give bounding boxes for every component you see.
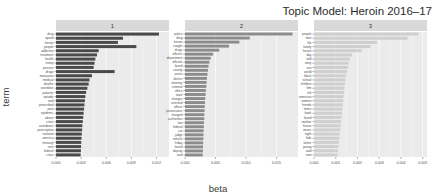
bar — [314, 133, 340, 136]
bar — [185, 57, 211, 60]
x-tick-label: 0.000 — [181, 161, 190, 165]
x-tick-label: 0.009 — [127, 161, 136, 165]
x-tick-label: 0.000 — [310, 161, 319, 165]
bar — [56, 124, 82, 127]
bar — [56, 87, 87, 90]
bar — [56, 120, 83, 123]
x-tick-label: 0.003 — [375, 161, 384, 165]
y-tick-label: said — [177, 153, 183, 157]
bar — [56, 116, 83, 119]
bar — [314, 145, 338, 148]
bar — [185, 117, 204, 120]
bar — [56, 53, 97, 56]
x-tick-label: 0.003 — [77, 161, 86, 165]
bar — [314, 116, 341, 119]
bar — [185, 61, 209, 64]
bar — [314, 78, 346, 81]
bar — [314, 141, 339, 144]
bar — [185, 129, 204, 132]
bar — [314, 137, 339, 140]
bar — [185, 113, 204, 116]
bar — [314, 62, 349, 65]
bar — [314, 112, 342, 115]
bar — [56, 58, 95, 61]
bar — [314, 45, 371, 48]
bar — [185, 89, 206, 92]
bar — [185, 69, 208, 72]
bar — [185, 125, 204, 128]
bar — [185, 81, 207, 84]
bar — [56, 66, 94, 69]
bar — [56, 62, 95, 65]
bar — [56, 49, 99, 52]
bar — [314, 153, 337, 156]
x-tick-label: 0.005 — [211, 161, 220, 165]
bar — [185, 93, 206, 96]
bar — [185, 121, 204, 124]
facet-panel-3: 3peopletimelifefamilyheroindaytoldstorys… — [299, 20, 427, 165]
bar — [185, 85, 206, 88]
bar — [314, 53, 352, 56]
bar — [185, 109, 205, 112]
bar — [185, 37, 250, 40]
bar — [314, 37, 407, 40]
bar — [314, 87, 344, 90]
bar — [56, 103, 84, 106]
bar — [185, 65, 209, 68]
bar — [185, 101, 205, 104]
y-tick-label: crisis — [46, 153, 53, 157]
bar — [314, 120, 341, 123]
bar — [185, 77, 207, 80]
bar — [314, 58, 350, 61]
bar — [56, 74, 92, 77]
bar — [185, 73, 207, 76]
bar — [314, 83, 345, 86]
bar — [56, 83, 89, 86]
bar — [185, 145, 203, 148]
bar — [314, 91, 344, 94]
bar — [56, 45, 136, 48]
bar — [185, 53, 213, 56]
x-tick-label: 0.005 — [418, 161, 427, 165]
bar — [185, 41, 239, 44]
y-tick-label: new — [306, 153, 312, 157]
bar — [56, 112, 84, 115]
bar — [185, 105, 205, 108]
x-tick-label: 0.010 — [242, 161, 251, 165]
bar — [185, 33, 293, 36]
bar — [314, 70, 347, 73]
bar — [314, 74, 346, 77]
bar — [185, 45, 229, 48]
x-tick-label: 0.002 — [353, 161, 362, 165]
bar — [314, 108, 342, 111]
bar — [56, 145, 81, 148]
chart-title: Topic Model: Heroin 2016–17 — [282, 5, 432, 17]
bar — [314, 103, 343, 106]
bar — [56, 91, 86, 94]
y-axis-title: term — [0, 87, 11, 106]
bar — [56, 149, 81, 152]
bar — [56, 33, 159, 36]
bar — [314, 149, 338, 152]
x-tick-label: 0.004 — [396, 161, 405, 165]
bar — [56, 133, 82, 136]
bar — [56, 78, 89, 81]
bar — [314, 33, 418, 36]
x-axis-title: beta — [209, 183, 228, 194]
facet-panel-2: 2policedrugheroincaughtdrugsofficersdepa… — [166, 20, 298, 165]
bar — [56, 137, 82, 140]
x-tick-label: 0.015 — [272, 161, 281, 165]
facet-panel-1: 1drugopioidheroinpeopleaddictiontreatmen… — [37, 20, 169, 165]
bar — [56, 128, 82, 131]
x-tick-label: 0.006 — [102, 161, 111, 165]
bar — [314, 128, 340, 131]
bar — [185, 141, 203, 144]
bar — [185, 154, 203, 157]
bar — [314, 99, 343, 102]
facet-panels: 1drugopioidheroinpeopleaddictiontreatmen… — [37, 20, 427, 165]
bar — [314, 124, 341, 127]
bar — [56, 153, 81, 156]
x-tick-label: 0.012 — [152, 161, 161, 165]
x-tick-label: 0.001 — [331, 161, 340, 165]
bar — [56, 141, 81, 144]
